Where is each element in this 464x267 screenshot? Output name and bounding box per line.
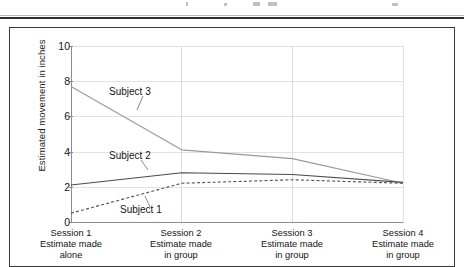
x-label-session-4-line1: Session 4 — [343, 228, 463, 239]
series-line-subject-3 — [71, 86, 403, 183]
leader-line-subject2 — [141, 160, 148, 170]
x-label-session-2-line2: Estimate made — [121, 239, 241, 250]
x-label-session-2: Session 2 Estimate made in group — [121, 228, 241, 262]
series-label-subject1: Subject 1 — [120, 204, 162, 215]
x-label-session-3-line3: in group — [232, 250, 352, 261]
leader-line-subject3 — [137, 96, 143, 110]
x-label-session-3-line1: Session 3 — [232, 228, 352, 239]
x-label-session-2-line1: Session 2 — [121, 228, 241, 239]
series-line-subject-2 — [71, 173, 403, 185]
x-label-session-1-line1: Session 1 — [11, 228, 131, 239]
x-label-session-1: Session 1 Estimate made alone — [11, 228, 131, 262]
x-label-session-2-line3: in group — [121, 250, 241, 261]
x-label-session-1-line3: alone — [11, 250, 131, 261]
series-label-subject2: Subject 2 — [109, 150, 151, 161]
x-label-session-3-line2: Estimate made — [232, 239, 352, 250]
series-label-subject3: Subject 3 — [109, 86, 151, 97]
x-label-session-4-line2: Estimate made — [343, 239, 463, 250]
x-label-session-4-line3: in group — [343, 250, 463, 261]
x-label-session-3: Session 3 Estimate made in group — [232, 228, 352, 262]
x-label-session-1-line2: Estimate made — [11, 239, 131, 250]
x-label-session-4: Session 4 Estimate made in group — [343, 228, 463, 262]
